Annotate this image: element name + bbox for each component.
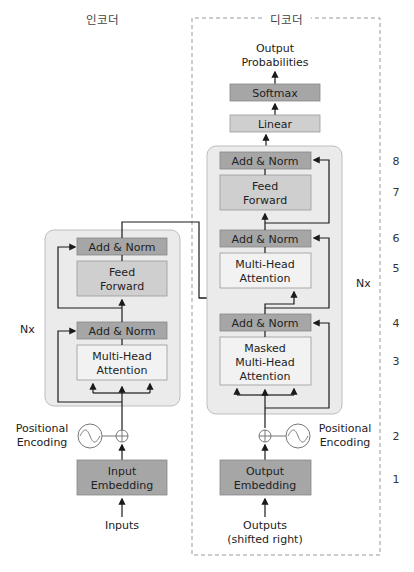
step-3: 3 bbox=[393, 355, 400, 368]
step-6: 6 bbox=[393, 232, 400, 245]
output-embedding-label-2: Embedding bbox=[234, 479, 296, 492]
encoder-mha-label-1: Multi-Head bbox=[92, 350, 152, 363]
output-embedding-label-1: Output bbox=[246, 465, 285, 478]
output-prob-label-2: Probabilities bbox=[241, 56, 308, 69]
encoder-pe-label-2: Encoding bbox=[17, 436, 68, 449]
step-2: 2 bbox=[393, 430, 400, 443]
step-numbers: 8 7 6 5 4 3 2 1 bbox=[393, 155, 400, 486]
decoder-ff-label-1: Feed bbox=[252, 180, 278, 193]
encoder-title: 인코더 bbox=[86, 13, 119, 27]
inputs-label: Inputs bbox=[105, 519, 139, 532]
input-embedding-label-2: Embedding bbox=[91, 479, 153, 492]
decoder-mmha-label-3: Attention bbox=[240, 370, 291, 383]
decoder-add-norm-1-label: Add & Norm bbox=[232, 317, 299, 330]
decoder-nx-label: Nx bbox=[356, 277, 371, 290]
decoder-block: Add & Norm Feed Forward Add & Norm Multi… bbox=[207, 146, 342, 428]
decoder-add-norm-3-label: Add & Norm bbox=[232, 155, 299, 168]
transformer-diagram: 인코더 디코더 Add & Norm Feed Forward Add & No… bbox=[0, 0, 414, 572]
input-embedding-label-1: Input bbox=[108, 465, 137, 478]
decoder-mha-label-2: Attention bbox=[240, 272, 291, 285]
encoder-add-norm-bottom-label: Add & Norm bbox=[89, 325, 156, 338]
encoder-ff-label-2: Forward bbox=[100, 280, 144, 293]
linear-label: Linear bbox=[258, 118, 293, 131]
decoder-mmha-label-1: Masked bbox=[244, 342, 286, 355]
decoder-title: 디코더 bbox=[270, 13, 303, 27]
softmax-label: Softmax bbox=[252, 87, 298, 100]
decoder-pe-label-1: Positional bbox=[319, 422, 372, 435]
step-5: 5 bbox=[393, 262, 400, 275]
encoder-ff-label-1: Feed bbox=[109, 266, 135, 279]
encoder-pe-label-1: Positional bbox=[16, 422, 69, 435]
encoder-nx-label: Nx bbox=[20, 323, 35, 336]
outputs-label-2: (shifted right) bbox=[227, 533, 302, 546]
step-7: 7 bbox=[393, 186, 400, 199]
decoder-add-norm-2-label: Add & Norm bbox=[232, 233, 299, 246]
outputs-label-1: Outputs bbox=[243, 519, 287, 532]
decoder-mha-label-1: Multi-Head bbox=[235, 258, 295, 271]
encoder-mha-label-2: Attention bbox=[97, 364, 148, 377]
encoder-positional-encoding: Positional Encoding bbox=[16, 422, 128, 449]
decoder-pe-label-2: Encoding bbox=[320, 436, 371, 449]
output-prob-label-1: Output bbox=[256, 42, 295, 55]
decoder-mmha-label-2: Multi-Head bbox=[235, 356, 295, 369]
encoder-add-norm-top-label: Add & Norm bbox=[89, 241, 156, 254]
step-1: 1 bbox=[393, 473, 400, 486]
step-4: 4 bbox=[393, 317, 400, 330]
step-8: 8 bbox=[393, 155, 400, 168]
decoder-ff-label-2: Forward bbox=[243, 194, 287, 207]
decoder-positional-encoding: Positional Encoding bbox=[259, 422, 371, 449]
